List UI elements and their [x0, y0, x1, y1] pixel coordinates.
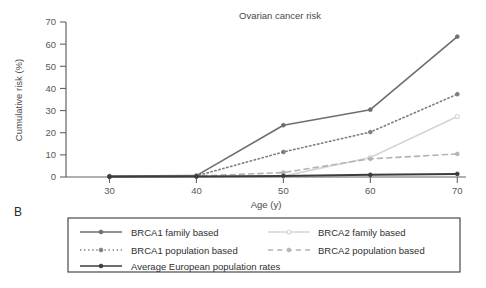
y-tick-label: 30 [45, 105, 56, 116]
data-point [455, 35, 459, 39]
figure-panel-b: Ovarian cancer risk 010203040506070 3040… [0, 0, 486, 288]
legend-swatch-marker [99, 264, 103, 268]
y-tick-label: 10 [45, 149, 56, 160]
legend-swatch-marker [99, 230, 103, 234]
data-point [368, 157, 372, 161]
data-point [368, 130, 372, 134]
legend-swatch-marker [99, 248, 103, 252]
y-tick-label: 20 [45, 127, 56, 138]
x-tick-label: 30 [104, 185, 115, 196]
x-tick-label: 40 [191, 185, 202, 196]
data-point [368, 108, 372, 112]
y-tick-label: 50 [45, 61, 56, 72]
y-tick-label: 40 [45, 83, 56, 94]
y-tick-label: 70 [45, 16, 56, 27]
data-point [195, 175, 199, 179]
legend-item-label: Average European population rates [131, 261, 281, 272]
data-point [108, 175, 112, 179]
data-point [455, 172, 459, 176]
y-tick-label: 0 [51, 171, 56, 182]
data-point [281, 150, 285, 154]
x-tick-label: 50 [278, 185, 289, 196]
legend-swatch-marker [287, 248, 291, 252]
chart-legend: BRCA1 family basedBRCA1 population based… [68, 218, 460, 272]
ovarian-cancer-risk-chart: Ovarian cancer risk 010203040506070 3040… [0, 0, 486, 288]
chart-title: Ovarian cancer risk [239, 10, 321, 21]
legend-item-label: BRCA1 family based [131, 227, 219, 238]
legend-item-label: BRCA1 population based [131, 245, 238, 256]
x-axis-title: Age (y) [251, 199, 282, 210]
data-point [281, 123, 285, 127]
y-tick-label: 60 [45, 39, 56, 50]
data-point [455, 115, 459, 119]
legend-item-label: BRCA2 population based [318, 245, 425, 256]
x-tick-label: 60 [365, 185, 376, 196]
y-axis-title: Cumulative risk (%) [13, 59, 24, 141]
legend-swatch-marker [287, 230, 291, 234]
data-point [368, 173, 372, 177]
legend-item-label: BRCA2 family based [318, 227, 406, 238]
data-point [455, 92, 459, 96]
x-tick-label: 70 [452, 185, 463, 196]
panel-label: B [14, 205, 22, 219]
data-point [281, 174, 285, 178]
data-point [455, 152, 459, 156]
